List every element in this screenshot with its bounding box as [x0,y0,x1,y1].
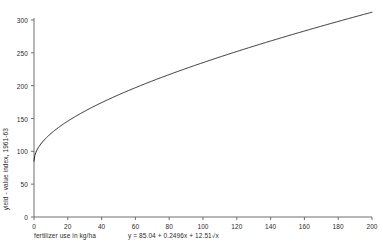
x-axis-tick-label: 100 [197,223,208,230]
x-axis-tick-label: 180 [333,223,344,230]
x-axis-tick-label: 0 [32,223,36,230]
chart-figure: 050100150200250300 020406080100120140160… [0,0,383,247]
x-axis-tick-label: 80 [165,223,172,230]
x-axis-tick-label: 200 [366,223,377,230]
y-axis-title: yield - value index, 1961-63 [2,128,9,210]
chart-plot-area [0,0,383,247]
axes-group [34,18,372,217]
x-axis-tick-label: 160 [299,223,310,230]
data-series-line [34,12,372,161]
x-axis-tick-label: 40 [98,223,105,230]
equation-annotation: y = 85.04 + 0.2496x + 12.51√x [128,232,219,239]
y-axis-tick-label: 300 [0,17,28,24]
x-axis-tick-label: 140 [265,223,276,230]
x-axis-title: fertilizer use in kg/ha [34,232,96,239]
x-axis-tick-label: 120 [231,223,242,230]
y-axis-tick-label: 250 [0,49,28,56]
y-axis-tick-label: 200 [0,82,28,89]
x-axis-tick-label: 20 [64,223,71,230]
y-axis-tick-label: 150 [0,115,28,122]
x-axis-tick-label: 60 [132,223,139,230]
y-axis-tick-label: 0 [0,214,28,221]
